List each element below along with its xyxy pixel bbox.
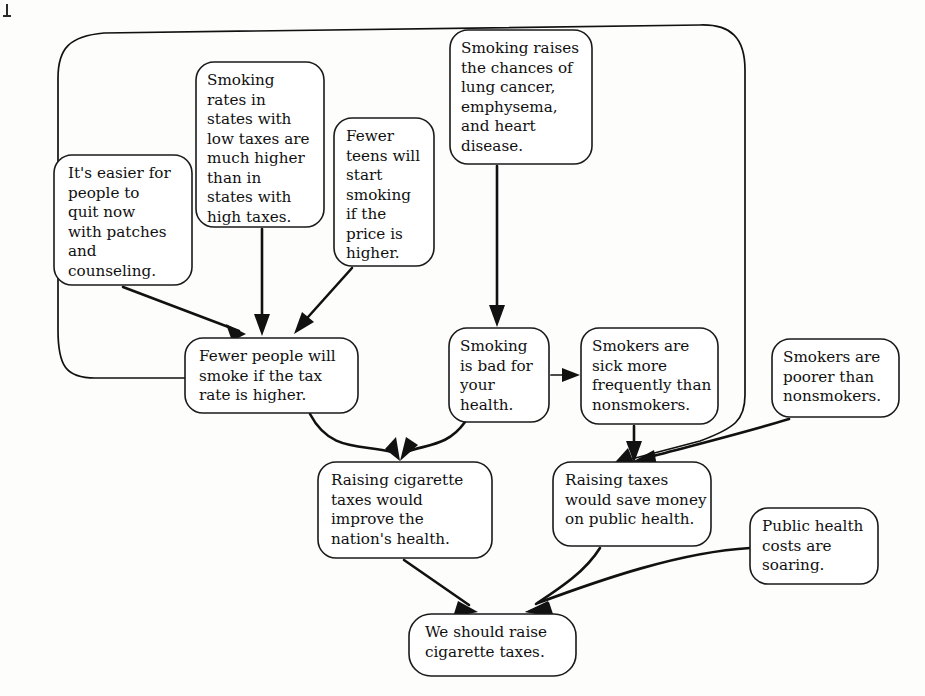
argument-map-svg: It's easier for people to quit now with … xyxy=(0,0,925,696)
edge-fewer-teens-to-fewer-smoke xyxy=(294,268,352,334)
node-smokers-sick[interactable]: Smokers are sick more frequently than no… xyxy=(581,328,718,424)
node-smokers-poorer[interactable]: Smokers are poorer than nonsmokers. xyxy=(772,339,899,417)
node-smoking-bad[interactable]: Smoking is bad for your health. xyxy=(449,328,549,422)
node-smokers-poorer-text: Smokers are poorer than nonsmokers. xyxy=(783,348,885,405)
node-fewer-teens[interactable]: Fewer teens will start smoking if the pr… xyxy=(334,118,434,266)
edge-state-rates-to-fewer-smoke xyxy=(254,229,270,336)
node-conclusion-text: We should raise cigarette taxes. xyxy=(425,623,552,661)
edge-risk-to-smoking-bad xyxy=(489,166,505,327)
edge-smokers-poorer-to-save-money xyxy=(632,419,789,466)
edge-smoking-bad-to-smokers-sick xyxy=(551,368,580,382)
arrowhead-risk-to-bad xyxy=(489,305,505,327)
node-smoking-raises-risk[interactable]: Smoking raises the chances of lung cance… xyxy=(450,30,592,164)
arrowhead-rates-to-fewer xyxy=(254,314,270,336)
node-improve-health[interactable]: Raising cigarette taxes would improve th… xyxy=(318,462,492,558)
arrowhead-bad-to-sick xyxy=(562,368,580,382)
edge-fewer-smoke-to-improve-health xyxy=(310,414,400,461)
node-fewer-smoke[interactable]: Fewer people will smoke if the tax rate … xyxy=(185,338,358,413)
node-save-money[interactable]: Raising taxes would save money on public… xyxy=(553,462,711,546)
edge-smoking-bad-to-improve-health xyxy=(400,422,465,461)
scan-artifact-mark xyxy=(6,4,8,16)
edge-save-money-to-conclusion xyxy=(525,548,600,616)
node-state-rates[interactable]: Smoking rates in states with low taxes a… xyxy=(196,62,324,227)
node-costs-soaring[interactable]: Public health costs are soaring. xyxy=(750,508,878,584)
edge-improve-health-to-conclusion xyxy=(404,560,478,617)
scan-artifact-underline xyxy=(3,15,11,17)
node-conclusion[interactable]: We should raise cigarette taxes. xyxy=(409,614,576,676)
argument-diagram-canvas: It's easier for people to quit now with … xyxy=(0,0,925,696)
arrowhead-fewer-to-improve xyxy=(385,437,400,461)
edge-quit-aids-to-fewer-smoke xyxy=(123,287,246,341)
node-quit-aids[interactable]: It's easier for people to quit now with … xyxy=(54,155,192,285)
edge-costs-soaring-to-conclusion xyxy=(525,548,750,617)
